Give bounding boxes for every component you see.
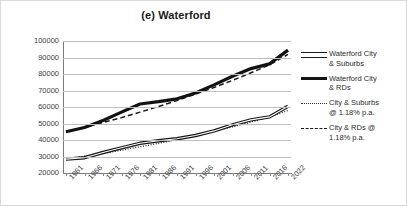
legend-label-line2: & Suburbs — [329, 59, 364, 68]
legend-line-swatch-icon — [301, 74, 327, 84]
legend-item-label: Waterford City& Suburbs — [329, 49, 406, 68]
series-line-outer — [66, 106, 288, 159]
legend-label-line1: City & RDs @ — [329, 123, 375, 132]
legend-label-line1: City & Suburbs — [329, 98, 379, 107]
legend-line-swatch-icon — [301, 123, 327, 133]
legend-label-line2: 1.18% p.a. — [329, 133, 365, 142]
gridline — [63, 41, 291, 42]
x-axis-labels: 1961196619711976198119861991199620012006… — [63, 173, 303, 206]
gridline — [63, 107, 291, 108]
y-tick-label: 50000 — [11, 119, 59, 128]
y-tick-label: 30000 — [11, 152, 59, 161]
chart-container: (e) Waterford 10000090000800007000060000… — [0, 0, 407, 206]
y-tick-label: 70000 — [11, 86, 59, 95]
legend-item[interactable]: Waterford City& Suburbs — [301, 49, 406, 68]
legend-label-line2: @ 1.18% p.a. — [329, 108, 375, 117]
legend-item-label: Waterford City& RDs — [329, 74, 406, 93]
legend-item-label: City & RDs @1.18% p.a. — [329, 123, 406, 142]
gridline — [63, 58, 291, 59]
y-tick-label: 80000 — [11, 69, 59, 78]
y-tick-label: 100000 — [11, 36, 59, 45]
legend-item-label: City & Suburbs@ 1.18% p.a. — [329, 98, 406, 117]
legend-item[interactable]: City & Suburbs@ 1.18% p.a. — [301, 98, 406, 117]
gridline — [63, 91, 291, 92]
chart-legend: Waterford City& SuburbsWaterford City& R… — [301, 49, 406, 148]
legend-label-line2: & RDs — [329, 83, 351, 92]
plot-area — [63, 41, 291, 173]
gridline — [63, 124, 291, 125]
legend-item[interactable]: City & RDs @1.18% p.a. — [301, 123, 406, 142]
gridline — [63, 140, 291, 141]
legend-item[interactable]: Waterford City& RDs — [301, 74, 406, 93]
chart-title: (e) Waterford — [61, 9, 291, 21]
series-line-inner — [66, 106, 288, 159]
y-tick-label: 40000 — [11, 135, 59, 144]
gridline — [63, 157, 291, 158]
y-tick-label: 60000 — [11, 102, 59, 111]
legend-label-line1: Waterford City — [329, 74, 377, 83]
y-tick-label: 90000 — [11, 53, 59, 62]
y-axis-labels: 1000009000080000700006000050000400003000… — [7, 41, 59, 173]
y-tick-label: 20000 — [11, 168, 59, 177]
gridline — [63, 74, 291, 75]
legend-line-swatch-icon — [301, 49, 327, 59]
legend-line-swatch-icon — [301, 98, 327, 108]
legend-label-line1: Waterford City — [329, 49, 377, 58]
